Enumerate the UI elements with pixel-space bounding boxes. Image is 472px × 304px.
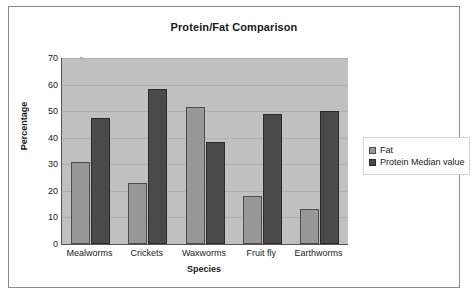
bar[interactable] [186,107,205,244]
bar[interactable] [320,111,339,244]
y-axis-tick-label: 70 [48,53,58,63]
x-axis-tick-label: Fruit fly [233,248,290,258]
y-axis-title: Percentage [19,71,29,181]
y-axis-tick-label: 50 [48,106,58,116]
legend-item[interactable]: Fat [369,145,465,155]
y-axis-tick-label: 20 [48,186,58,196]
bar-group [119,58,176,244]
y-axis-tick-labels: 010203040506070 [31,58,58,244]
bar[interactable] [91,118,110,244]
x-axis-tick-label: Crickets [118,248,175,258]
x-axis-tick-labels: MealwormsCricketsWaxwormsFruit flyEarthw… [61,248,347,258]
y-axis-tick-label: 0 [53,239,58,249]
chart-frame: Protein/Fat Comparison Percentage 010203… [8,6,460,288]
x-axis-tick-label: Waxworms [175,248,232,258]
plot-area [61,58,348,245]
legend-swatch-icon [369,159,376,166]
legend-item[interactable]: Protein Median value [369,157,465,167]
bars-layer [62,58,348,244]
bar-group [291,58,348,244]
x-axis-title: Species [61,264,347,274]
bar[interactable] [71,162,90,244]
bar-group [62,58,119,244]
bar[interactable] [206,142,225,244]
chart-legend: FatProtein Median value [363,137,470,175]
y-axis-tick-label: 60 [48,80,58,90]
x-axis-tick-label: Earthworms [290,248,347,258]
chart-title: Protein/Fat Comparison [9,21,459,33]
bar-group [234,58,291,244]
y-axis-tick-label: 10 [48,212,58,222]
bar[interactable] [128,183,147,244]
legend-item-label: Fat [380,145,393,155]
bar[interactable] [263,114,282,244]
bar[interactable] [243,196,262,244]
bar-group [176,58,233,244]
legend-item-label: Protein Median value [380,157,465,167]
legend-swatch-icon [369,147,376,154]
y-axis-tick-label: 30 [48,159,58,169]
bar[interactable] [148,89,167,244]
bar[interactable] [300,209,319,244]
x-axis-tick-label: Mealworms [61,248,118,258]
y-axis-tick-label: 40 [48,133,58,143]
